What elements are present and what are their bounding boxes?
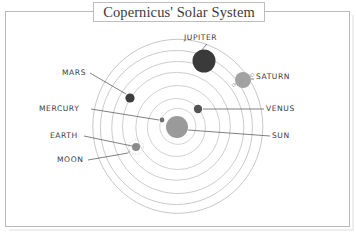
planet-moon bbox=[128, 151, 130, 153]
planet-mars bbox=[125, 93, 134, 102]
planet-venus bbox=[194, 105, 202, 113]
figure-page: Copernicus' Solar System JUPITERSATURNMA… bbox=[0, 0, 356, 238]
label-saturn: SATURN bbox=[256, 72, 290, 81]
page-title: Copernicus' Solar System bbox=[103, 4, 255, 21]
planet-mercury bbox=[160, 118, 165, 123]
leader-line-sun bbox=[188, 130, 270, 136]
label-mercury: MERCURY bbox=[39, 104, 79, 113]
label-jupiter: JUPITER bbox=[184, 33, 217, 42]
label-moon: MOON bbox=[57, 155, 83, 164]
label-earth: EARTH bbox=[50, 131, 78, 140]
planet-earth bbox=[132, 143, 140, 151]
figure-title-box: Copernicus' Solar System bbox=[93, 2, 265, 22]
label-mars: MARS bbox=[62, 68, 86, 77]
planet-jupiter bbox=[193, 50, 216, 73]
planet-saturn bbox=[235, 72, 251, 88]
planet-sun bbox=[166, 116, 188, 138]
label-sun: SUN bbox=[272, 131, 290, 140]
saturn-ring-knob-right bbox=[250, 73, 254, 77]
solar-system-diagram bbox=[0, 0, 356, 238]
label-venus: VENUS bbox=[266, 104, 295, 113]
saturn-ring-knob-left bbox=[232, 83, 236, 87]
leader-line-moon bbox=[88, 153, 128, 160]
